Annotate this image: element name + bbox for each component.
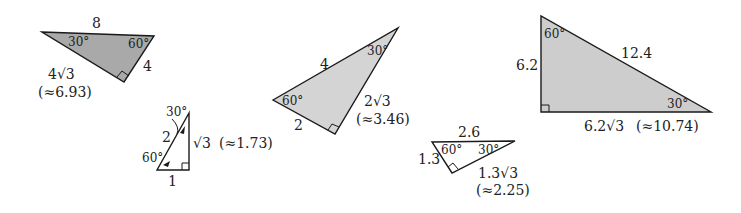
angle-marker-icon [163, 161, 170, 167]
t4-angle-60-label: 60° [441, 143, 462, 157]
t2-long-leg-approx-label: (≈1.73) [219, 135, 273, 151]
t4-short-leg-label: 1.3 [418, 151, 440, 167]
triangle-3: 4 30° 60° 2 2√3 (≈3.46) [273, 28, 410, 134]
t3-angle-30-label: 30° [367, 44, 388, 58]
t5-angle-30-label: 30° [667, 97, 688, 111]
triangle-5: 60° 12.4 6.2 30° 6.2√3 (≈10.74) [516, 16, 711, 134]
t5-hypotenuse-label: 12.4 [621, 45, 652, 61]
t2-short-leg-label: 1 [168, 173, 177, 189]
triangle-1: 8 30° 60° 4 4√3 (≈6.93) [38, 15, 154, 100]
t5-angle-60-label: 60° [544, 27, 565, 41]
t1-angle-60-label: 60° [128, 37, 149, 51]
angle-pointer-icon [172, 119, 178, 134]
right-angle-icon [182, 163, 189, 170]
t4-long-leg-approx-label: (≈2.25) [476, 182, 530, 198]
t4-angle-30-label: 30° [478, 143, 499, 157]
triangles-figure: 8 30° 60° 4 4√3 (≈6.93) 30° 2 60° 1 √3 (… [0, 0, 741, 213]
t4-long-leg-label: 1.3√3 [478, 165, 518, 181]
t4-hypotenuse-label: 2.6 [458, 124, 480, 140]
t5-short-leg-label: 6.2 [516, 57, 538, 73]
t1-angle-30-label: 30° [68, 35, 89, 49]
t2-hypotenuse-label: 2 [162, 129, 171, 145]
t3-hypotenuse-label: 4 [320, 56, 329, 72]
t2-long-leg-label: √3 [193, 135, 211, 151]
t3-long-leg-label: 2√3 [364, 93, 391, 109]
t3-angle-60-label: 60° [282, 94, 303, 108]
t3-short-leg-label: 2 [294, 117, 303, 133]
t1-long-leg-label: 4√3 [48, 66, 75, 82]
t2-angle-30-label: 30° [166, 105, 187, 119]
t2-angle-60-label: 60° [142, 151, 163, 165]
t5-long-leg-approx-label: (≈10.74) [636, 118, 699, 134]
t1-long-leg-approx-label: (≈6.93) [38, 84, 92, 100]
triangle-2: 30° 2 60° 1 √3 (≈1.73) [142, 105, 273, 189]
t1-short-leg-label: 4 [143, 58, 152, 74]
t5-long-leg-label: 6.2√3 [584, 118, 624, 134]
t3-long-leg-approx-label: (≈3.46) [356, 111, 410, 127]
triangle-4: 2.6 60° 30° 1.3 1.3√3 (≈2.25) [418, 124, 530, 198]
t1-hypotenuse-label: 8 [92, 15, 101, 31]
